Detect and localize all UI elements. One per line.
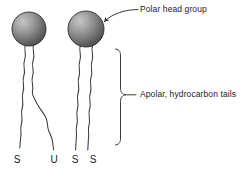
chain-letter-saturated-2: S — [69, 154, 81, 165]
polar-head-sphere-left — [12, 12, 46, 46]
chain-letter-unsaturated: U — [48, 154, 60, 165]
polar-head-sphere-right — [68, 11, 104, 47]
chain-letter-saturated-3: S — [87, 154, 99, 165]
apolar-hydrocarbon-tails-label: Apolar, hydrocarbon tails — [140, 89, 236, 99]
polar-head-group-label: Polar head group — [140, 4, 207, 14]
chain-letter-saturated-1: S — [11, 154, 23, 165]
lipid-diagram — [0, 0, 245, 172]
